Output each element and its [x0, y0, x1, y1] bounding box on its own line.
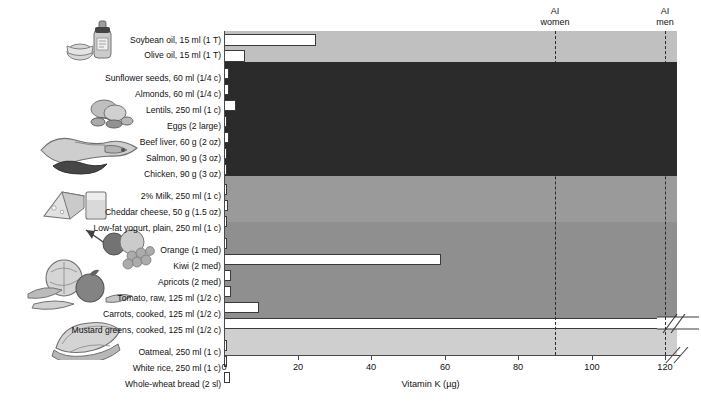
row-label-orange: Orange (1 med)	[160, 245, 221, 255]
row-label-tomato: Tomato, raw, 125 ml (1/2 c)	[117, 293, 221, 303]
ai-men-line	[665, 31, 666, 355]
ai-men-label-line1: AI	[661, 6, 670, 17]
row-label-apricots: Apricots (2 med)	[158, 277, 221, 287]
xtick-60	[445, 355, 446, 360]
row-label-carrots: Carrots, cooked, 125 ml (1/2 c)	[103, 309, 221, 319]
row-label-eggs: Eggs (2 large)	[167, 121, 221, 131]
group-band-protein-foods	[224, 62, 677, 176]
row-label-mustard-greens: Mustard greens, cooked, 125 ml (1/2 c)	[71, 325, 221, 335]
xtick-0	[224, 355, 225, 360]
row-label-sunflower-seeds: Sunflower seeds, 60 ml (1/4 c)	[105, 73, 221, 83]
xtick-label-120: 120	[657, 362, 672, 372]
x-axis-title: Vitamin K (µg)	[401, 379, 459, 389]
bar-milk	[224, 184, 227, 195]
row-label-lentils: Lentils, 250 ml (1 c)	[146, 105, 221, 115]
group-band-fruits-vegetables	[224, 222, 677, 318]
row-label-white-rice: White rice, 250 ml (1 c)	[133, 363, 221, 373]
row-label-milk: 2% Milk, 250 ml (1 c)	[141, 191, 221, 201]
ai-women-line	[555, 31, 556, 355]
bar-oatmeal	[224, 340, 227, 351]
bar-mustard-greens	[224, 318, 677, 329]
bar-soybean-oil	[224, 34, 316, 46]
row-label-cheddar-cheese: Cheddar cheese, 50 g (1.5 oz)	[105, 207, 221, 217]
bar-carrots	[224, 302, 259, 313]
plot-area	[224, 31, 677, 355]
ai-women-label-line2: women	[540, 17, 569, 28]
bar-beef-liver	[224, 132, 229, 143]
category-labels: Soybean oil, 15 ml (1 T) Olive oil, 15 m…	[0, 0, 221, 409]
row-label-oatmeal: Oatmeal, 250 ml (1 c)	[138, 347, 221, 357]
bar-olive-oil	[224, 50, 245, 62]
xtick-100	[592, 355, 593, 360]
xtick-20	[298, 355, 299, 360]
xtick-label-60: 60	[440, 362, 450, 372]
xtick-80	[518, 355, 519, 360]
bar-yogurt	[224, 216, 227, 227]
xtick-label-20: 20	[293, 362, 303, 372]
bar-eggs	[224, 116, 227, 127]
xtick-label-40: 40	[366, 362, 376, 372]
bar-apricots	[224, 270, 231, 281]
bar-tomato	[224, 286, 231, 297]
bar-chicken	[224, 164, 227, 175]
group-band-dairy	[224, 176, 677, 222]
bar-orange	[224, 238, 227, 249]
ai-women-label-line1: AI	[551, 6, 560, 17]
row-label-olive-oil: Olive oil, 15 ml (1 T)	[144, 50, 221, 60]
row-label-almonds: Almonds, 60 ml (1/4 c)	[135, 89, 221, 99]
xtick-40	[371, 355, 372, 360]
row-label-salmon: Salmon, 90 g (3 oz)	[146, 153, 221, 163]
x-axis-title-wrap: Vitamin K (µg)	[0, 379, 701, 389]
xtick-120	[665, 355, 666, 360]
x-axis-line	[224, 355, 681, 356]
row-label-beef-liver: Beef liver, 60 g (2 oz)	[140, 137, 221, 147]
bar-almonds	[224, 84, 229, 95]
bar-salmon	[224, 148, 227, 159]
xtick-label-0: 0	[221, 362, 226, 372]
bar-kiwi	[224, 254, 441, 265]
bar-cheddar-cheese	[224, 200, 228, 211]
row-label-chicken: Chicken, 90 g (3 oz)	[144, 169, 221, 179]
ai-men-label-line2: men	[656, 17, 674, 28]
row-label-kiwi: Kiwi (2 med)	[173, 261, 221, 271]
bar-lentils	[224, 100, 236, 111]
xtick-label-100: 100	[584, 362, 599, 372]
bar-sunflower-seeds	[224, 68, 229, 79]
row-label-yogurt: Low-fat yogurt, plain, 250 ml (1 c)	[93, 223, 221, 233]
row-label-soybean-oil: Soybean oil, 15 ml (1 T)	[130, 35, 221, 45]
xtick-label-80: 80	[513, 362, 523, 372]
vitamin-k-chart: Soybean oil, 15 ml (1 T) Olive oil, 15 m…	[0, 0, 701, 409]
